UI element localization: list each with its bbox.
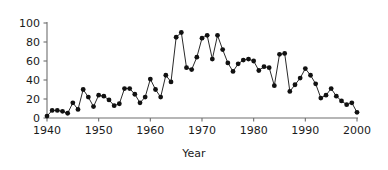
data-point xyxy=(287,89,292,94)
data-point xyxy=(205,33,210,38)
data-point xyxy=(143,95,148,100)
data-point xyxy=(262,64,267,69)
data-point xyxy=(122,86,127,91)
data-point xyxy=(112,103,117,108)
data-point xyxy=(277,52,282,57)
y-tick-label: 40 xyxy=(26,74,40,87)
data-point xyxy=(107,98,112,103)
data-point xyxy=(148,77,153,82)
data-series xyxy=(45,30,360,118)
y-tick-label: 20 xyxy=(26,93,40,106)
y-tick-label: 80 xyxy=(26,36,40,49)
data-point xyxy=(153,87,158,92)
data-point xyxy=(96,93,101,98)
data-point xyxy=(329,86,334,91)
y-tick-label: 100 xyxy=(19,17,40,30)
data-point xyxy=(298,76,303,81)
x-axis-title: Year xyxy=(181,147,206,160)
data-point xyxy=(65,111,70,116)
data-point xyxy=(334,94,339,99)
data-point xyxy=(117,101,122,106)
data-point xyxy=(225,61,230,66)
data-point xyxy=(50,108,55,113)
data-point xyxy=(251,59,256,64)
data-point xyxy=(194,55,199,60)
data-point xyxy=(132,92,137,97)
data-point xyxy=(349,100,354,105)
data-point xyxy=(236,61,241,66)
data-point xyxy=(256,68,261,73)
data-point xyxy=(101,94,106,99)
data-point xyxy=(324,93,329,98)
data-point xyxy=(174,35,179,40)
data-point xyxy=(158,95,163,100)
data-point xyxy=(86,95,91,100)
x-tick-label: 1970 xyxy=(188,124,216,137)
chart-figure: 020406080100 194019501960197019801990200… xyxy=(0,0,388,170)
data-point xyxy=(272,83,277,88)
data-point xyxy=(267,65,272,70)
data-point xyxy=(215,33,220,38)
data-point xyxy=(293,82,298,87)
data-point xyxy=(241,58,246,63)
data-point xyxy=(179,30,184,35)
data-point xyxy=(138,100,143,105)
x-tick-label: 1990 xyxy=(291,124,319,137)
data-point xyxy=(355,110,360,115)
data-point xyxy=(200,36,205,41)
data-point xyxy=(76,107,81,112)
data-point xyxy=(282,51,287,56)
data-point xyxy=(303,66,308,71)
data-point xyxy=(339,99,344,104)
x-tick-label: 1940 xyxy=(33,124,61,137)
data-point xyxy=(60,109,65,114)
data-point xyxy=(81,87,86,92)
line-chart-canvas: 020406080100 194019501960197019801990200… xyxy=(0,0,388,170)
x-tick-label: 1960 xyxy=(136,124,164,137)
y-axis: 020406080100 xyxy=(19,17,47,125)
data-point xyxy=(169,80,174,85)
data-point xyxy=(163,73,168,78)
x-tick-label: 1950 xyxy=(85,124,113,137)
x-tick-label: 2000 xyxy=(343,124,371,137)
y-tick-label: 60 xyxy=(26,55,40,68)
data-point xyxy=(344,102,349,107)
data-point xyxy=(308,73,313,78)
data-point xyxy=(189,67,194,72)
data-point xyxy=(313,81,318,86)
data-point xyxy=(45,114,50,119)
data-point xyxy=(246,57,251,62)
data-point xyxy=(318,96,323,101)
data-point xyxy=(91,104,96,109)
x-axis: 1940195019601970198019902000 xyxy=(33,118,371,137)
data-point xyxy=(231,69,236,74)
data-point xyxy=(55,108,60,113)
data-point xyxy=(210,57,215,62)
data-point xyxy=(184,65,189,70)
x-tick-label: 1980 xyxy=(240,124,268,137)
data-point xyxy=(127,86,132,91)
data-point xyxy=(70,100,75,105)
data-point xyxy=(220,47,225,52)
